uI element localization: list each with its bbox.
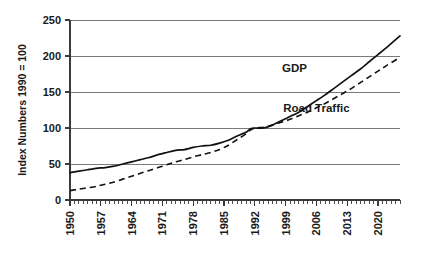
y-tick-label-0: 0: [55, 194, 61, 206]
y-axis-title-group: Index Numbers 1990 = 100: [16, 44, 28, 176]
series-line-road-traffic: [70, 57, 400, 190]
y-tick-label-250: 250: [43, 14, 61, 26]
gridlines-group: [70, 20, 400, 164]
x-tick-label-2020: 2020: [372, 211, 384, 235]
x-tick-label-1971: 1971: [156, 211, 168, 235]
y-axis-title: Index Numbers 1990 = 100: [16, 44, 28, 176]
x-tick-label-2006: 2006: [310, 211, 322, 235]
series-label-road-traffic: Road Traffic: [283, 102, 350, 114]
series-label-gdp: GDP: [282, 62, 307, 74]
x-tick-label-1964: 1964: [126, 210, 138, 235]
x-tick-labels-group: 1950195719641971197819851992199920062013…: [64, 210, 384, 235]
x-tick-label-1985: 1985: [218, 211, 230, 235]
y-tick-label-50: 50: [49, 158, 61, 170]
x-tick-label-1950: 1950: [64, 211, 76, 235]
series-annotations-group: GDPRoad Traffic: [282, 62, 350, 114]
x-tick-label-1999: 1999: [280, 211, 292, 235]
x-axis-group: [70, 200, 400, 206]
x-tick-label-1978: 1978: [187, 211, 199, 235]
series-group: [70, 36, 400, 191]
y-tick-labels-group: 050100150200250: [43, 14, 61, 206]
chart-canvas: 050100150200250 195019571964197119781985…: [0, 0, 425, 258]
x-tick-label-1992: 1992: [249, 211, 261, 235]
x-tick-label-2013: 2013: [341, 211, 353, 235]
x-tick-label-1957: 1957: [95, 211, 107, 235]
gdp-road-traffic-line-chart: 050100150200250 195019571964197119781985…: [0, 0, 425, 258]
y-tick-label-200: 200: [43, 50, 61, 62]
y-tick-label-150: 150: [43, 86, 61, 98]
y-tick-label-100: 100: [43, 122, 61, 134]
